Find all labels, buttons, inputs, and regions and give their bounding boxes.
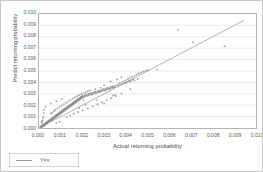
- y-tick-label: 0.003: [23, 91, 36, 96]
- data-point: [131, 76, 133, 78]
- x-tick-label: 0.002: [76, 133, 89, 138]
- data-point: [121, 81, 123, 83]
- x-tick-label: 0.005: [141, 133, 154, 138]
- data-point: [83, 99, 85, 101]
- data-point: [137, 78, 139, 80]
- data-point: [125, 82, 127, 84]
- y-tick-label: 0.002: [23, 103, 36, 108]
- data-point: [55, 100, 57, 102]
- data-point: [65, 102, 67, 104]
- data-point: [74, 97, 76, 99]
- data-point: [59, 121, 61, 123]
- y-tick-label: 0.007: [23, 45, 36, 50]
- x-tick-label: 0.009: [229, 133, 242, 138]
- scatter-chart: Predict returning probability 0.0000.001…: [0, 0, 263, 172]
- plot-svg: [39, 14, 256, 128]
- data-point: [100, 87, 102, 89]
- legend-line-swatch: [16, 160, 32, 161]
- data-point: [96, 99, 98, 101]
- y-tick-label: 0.005: [23, 68, 36, 73]
- data-point: [63, 103, 65, 105]
- x-axis-tick-labels: 0.0000.0010.0020.0030.0040.0050.0060.007…: [38, 132, 257, 140]
- data-point: [61, 98, 63, 100]
- data-point: [92, 105, 94, 107]
- data-point: [43, 109, 45, 111]
- data-point: [85, 104, 87, 106]
- data-point: [87, 90, 89, 92]
- x-tick-label: 0.000: [32, 133, 45, 138]
- data-point: [121, 76, 123, 78]
- data-point: [84, 96, 86, 98]
- data-point: [59, 106, 61, 108]
- y-tick-label: 0.009: [23, 22, 36, 27]
- data-point: [57, 107, 59, 109]
- data-point: [144, 70, 146, 72]
- data-point: [110, 81, 112, 83]
- data-point: [129, 81, 131, 83]
- data-point: [112, 95, 114, 97]
- data-point: [138, 73, 140, 75]
- y-tick-label: 0.000: [23, 126, 36, 131]
- data-point: [110, 87, 112, 89]
- data-point: [66, 116, 68, 118]
- data-point: [177, 29, 179, 31]
- x-tick-label: 0.004: [119, 133, 132, 138]
- data-point: [119, 84, 121, 86]
- data-point: [115, 95, 117, 97]
- data-point: [41, 122, 43, 124]
- data-point: [76, 95, 78, 97]
- data-point: [54, 109, 56, 111]
- data-point: [140, 72, 142, 74]
- data-point: [125, 79, 127, 81]
- data-point: [97, 91, 99, 93]
- data-point: [117, 85, 119, 87]
- data-point: [136, 73, 138, 75]
- data-point: [129, 88, 131, 90]
- data-point: [77, 111, 79, 113]
- data-point: [78, 107, 80, 109]
- data-point: [42, 117, 44, 119]
- data-point: [43, 112, 45, 114]
- y-tick-label: 0.001: [23, 114, 36, 119]
- data-point: [88, 94, 90, 96]
- data-point: [122, 83, 124, 85]
- data-point: [121, 93, 123, 95]
- y-tick-label: 0.010: [23, 10, 36, 15]
- data-point: [83, 92, 85, 94]
- data-point: [72, 98, 74, 100]
- data-point: [97, 103, 99, 105]
- data-point: [123, 80, 125, 82]
- data-point: [192, 41, 194, 43]
- x-tick-label: 0.007: [185, 133, 198, 138]
- data-point: [224, 45, 226, 47]
- data-point: [80, 93, 82, 95]
- y-tick-label: 0.008: [23, 33, 36, 38]
- data-point: [106, 99, 108, 101]
- data-point: [127, 78, 129, 80]
- data-point: [92, 93, 94, 95]
- data-point: [81, 109, 83, 111]
- data-point: [55, 122, 57, 124]
- x-tick-label: 0.001: [54, 133, 67, 138]
- data-point: [85, 91, 87, 93]
- data-point: [110, 97, 112, 99]
- chart-legend: Y=x: [9, 153, 79, 167]
- x-tick-label: 0.003: [97, 133, 110, 138]
- data-point: [51, 112, 53, 114]
- data-point: [101, 90, 103, 92]
- data-point: [156, 69, 158, 71]
- data-point: [73, 113, 75, 115]
- data-point: [134, 75, 136, 77]
- y-tick-label: 0.004: [23, 80, 36, 85]
- data-point: [50, 103, 52, 105]
- data-point: [70, 99, 72, 101]
- y-tick-label: 0.006: [23, 56, 36, 61]
- data-point: [114, 86, 116, 88]
- data-point: [87, 107, 89, 109]
- x-tick-label: 0.008: [207, 133, 220, 138]
- data-point: [103, 84, 105, 86]
- data-point: [105, 89, 107, 91]
- data-point: [67, 100, 69, 102]
- plot-area: [38, 13, 257, 129]
- data-point: [147, 69, 149, 71]
